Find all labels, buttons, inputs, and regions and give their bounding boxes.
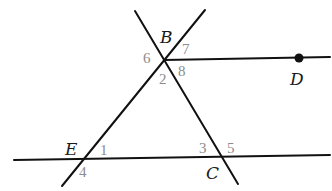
point-D-label: D bbox=[289, 69, 304, 89]
angle-3-label: 3 bbox=[199, 140, 207, 156]
line-EC bbox=[14, 155, 330, 160]
point-D-dot bbox=[295, 54, 304, 63]
ray-BD bbox=[164, 57, 330, 60]
angle-5-label: 5 bbox=[227, 140, 235, 156]
point-E-label: E bbox=[64, 139, 78, 159]
point-C-label: C bbox=[206, 163, 219, 183]
geometry-diagram: B D E C 6 7 8 2 1 4 3 5 bbox=[0, 0, 332, 191]
angle-4-label: 4 bbox=[79, 164, 87, 180]
angle-2-label: 2 bbox=[159, 71, 167, 87]
angle-1-label: 1 bbox=[100, 142, 108, 158]
angle-7-label: 7 bbox=[182, 41, 190, 57]
angle-6-label: 6 bbox=[143, 50, 151, 66]
point-B-label: B bbox=[159, 27, 173, 47]
angle-8-label: 8 bbox=[178, 63, 186, 79]
